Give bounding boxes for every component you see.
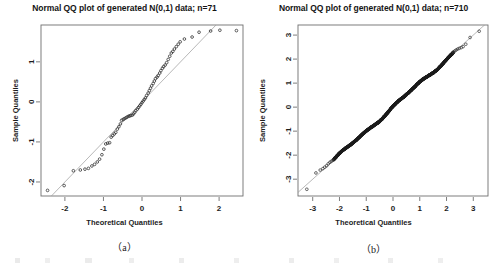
- data-point: [235, 29, 238, 32]
- data-point: [93, 163, 96, 166]
- x-tick-label: 0: [391, 204, 396, 213]
- data-point: [173, 48, 176, 51]
- scan-artifact-strip: [0, 258, 498, 263]
- y-tick-label: -1: [28, 138, 37, 146]
- data-point: [84, 168, 87, 171]
- data-point: [165, 61, 168, 64]
- data-point: [198, 31, 201, 34]
- data-point: [315, 172, 318, 175]
- data-point: [191, 36, 194, 39]
- y-tick-label: 1: [285, 80, 294, 85]
- y-tick-label: 1: [28, 59, 37, 64]
- data-point: [101, 153, 104, 156]
- x-tick-label: -3: [309, 204, 317, 213]
- qq-plot-panel-b: Normal QQ plot of generated N(0,1) data;…: [249, 0, 498, 263]
- data-point: [179, 40, 182, 43]
- figure-caption-b: （b）: [249, 241, 498, 256]
- data-point: [98, 158, 101, 161]
- data-point: [102, 148, 105, 151]
- x-tick-label: 0: [140, 204, 145, 213]
- y-tick-label: -2: [285, 151, 294, 159]
- y-axis-title-a: Sample Quantiles: [11, 79, 20, 142]
- x-tick-label: 1: [418, 204, 423, 213]
- data-point: [46, 189, 49, 192]
- x-tick-label: 2: [217, 204, 222, 213]
- data-point: [478, 30, 481, 33]
- data-point: [87, 167, 90, 170]
- data-point: [168, 55, 171, 58]
- y-tick-label: 0: [28, 99, 37, 104]
- y-tick-label: -3: [285, 175, 294, 183]
- data-point: [96, 161, 99, 164]
- x-tick-label: 3: [471, 204, 476, 213]
- qq-plot-figure: Normal QQ plot of generated N(0,1) data;…: [0, 0, 498, 263]
- data-point: [175, 45, 178, 48]
- x-axis-title-a: Theoretical Quantiles: [0, 218, 249, 227]
- data-point: [72, 169, 75, 172]
- x-tick-label: -2: [336, 204, 344, 213]
- data-point: [464, 43, 467, 46]
- y-tick-label: 0: [285, 104, 294, 109]
- x-axis-title-b: Theoretical Quantiles: [249, 218, 498, 227]
- y-tick-label: 2: [285, 56, 294, 61]
- data-point: [79, 169, 82, 172]
- data-point: [219, 29, 222, 32]
- data-point: [63, 184, 66, 187]
- data-point: [305, 188, 308, 191]
- data-point: [91, 165, 94, 168]
- y-axis-title-b: Sample Quantiles: [258, 79, 267, 142]
- x-tick-label: -1: [363, 204, 371, 213]
- data-point: [319, 169, 322, 172]
- x-tick-label: -2: [61, 204, 69, 213]
- y-tick-label: -1: [285, 127, 294, 135]
- data-point: [177, 43, 180, 46]
- x-tick-label: 1: [178, 204, 183, 213]
- y-tick-label: 3: [285, 32, 294, 37]
- data-point: [183, 38, 186, 41]
- data-point: [167, 58, 170, 61]
- qq-plot-panel-a: Normal QQ plot of generated N(0,1) data;…: [0, 0, 249, 263]
- x-tick-label: -1: [100, 204, 108, 213]
- x-tick-label: 2: [444, 204, 449, 213]
- y-tick-label: -2: [28, 178, 37, 186]
- figure-caption-a: （a）: [0, 239, 249, 254]
